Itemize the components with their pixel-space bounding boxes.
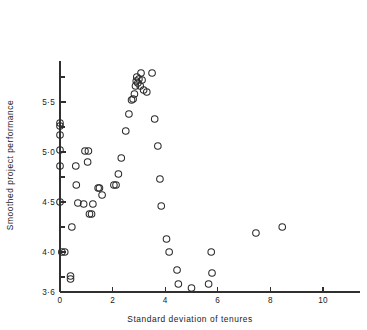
x-tick-label-5: 10 — [318, 296, 328, 305]
y-tick-label-6: 5·0 — [42, 148, 55, 157]
data-point — [158, 203, 165, 210]
data-point — [122, 128, 129, 135]
data-point — [115, 171, 122, 178]
data-point — [175, 281, 182, 288]
x-tick-label-4: 8 — [268, 296, 273, 305]
data-point — [279, 224, 286, 231]
y-tick-label-0: 3·6 — [42, 288, 55, 297]
data-points-group — [57, 70, 286, 292]
data-point — [69, 224, 76, 231]
data-point — [118, 155, 125, 162]
data-point — [166, 249, 173, 256]
data-point — [253, 230, 260, 237]
data-point — [149, 70, 156, 77]
data-point — [84, 159, 91, 166]
data-point — [151, 116, 158, 123]
x-axis-title: Standard deviation of tenures — [127, 314, 252, 324]
data-point — [155, 143, 162, 150]
scatter-plot-figure: 02468103·64·04·55·05·5 Standard deviatio… — [0, 0, 367, 330]
data-point — [205, 281, 212, 288]
data-point — [157, 176, 164, 183]
chart-canvas: 02468103·64·04·55·05·5 Standard deviatio… — [0, 0, 367, 330]
data-point — [72, 163, 79, 170]
data-point — [209, 270, 216, 277]
data-point — [188, 285, 195, 292]
y-tick-label-8: 5·5 — [42, 98, 55, 107]
data-point — [126, 111, 133, 118]
x-tick-label-2: 4 — [163, 296, 168, 305]
data-point — [99, 192, 106, 199]
y-tick-label-4: 4·5 — [42, 198, 55, 207]
data-point — [138, 70, 145, 77]
x-tick-label-1: 2 — [110, 296, 115, 305]
x-tick-label-0: 0 — [58, 296, 63, 305]
data-point — [208, 249, 215, 256]
data-point — [163, 236, 170, 243]
axes-group — [60, 61, 360, 292]
data-point — [174, 267, 181, 274]
y-tick-label-2: 4·0 — [42, 248, 55, 257]
y-axis-title: Smoothed project performance — [5, 100, 15, 230]
data-point — [73, 182, 80, 189]
data-point — [90, 201, 97, 208]
x-tick-label-3: 6 — [215, 296, 220, 305]
